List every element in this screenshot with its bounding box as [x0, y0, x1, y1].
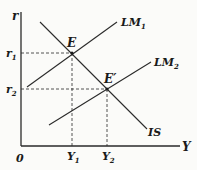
tick-r1-sub: 1 — [12, 53, 17, 62]
tick-y1-sub: 1 — [75, 156, 80, 165]
point-e — [70, 51, 73, 54]
label-is: IS — [147, 126, 161, 139]
origin-label: 0 — [16, 152, 24, 165]
label-lm2-sub: 2 — [173, 62, 179, 71]
label-lm2-main: LM — [153, 56, 175, 69]
x-axis-label: Y — [182, 140, 192, 154]
tick-r1: r1 — [6, 47, 17, 62]
point-e-prime — [105, 87, 108, 90]
label-lm2: LM2 — [153, 56, 179, 71]
label-point-e: E — [66, 36, 77, 50]
y-axis-label: r — [12, 9, 20, 23]
tick-r2-sub: 2 — [11, 89, 17, 98]
tick-y2-sub: 2 — [109, 156, 115, 165]
label-lm1-main: LM — [120, 16, 142, 29]
curve-lm2 — [49, 62, 151, 125]
tick-r2: r2 — [6, 83, 17, 98]
curve-is — [40, 22, 147, 129]
label-point-e-prime: E′ — [103, 72, 117, 86]
tick-y2: Y2 — [102, 150, 115, 165]
label-lm1: LM1 — [120, 16, 146, 31]
tick-y1: Y1 — [67, 150, 80, 165]
label-lm1-sub: 1 — [141, 22, 146, 31]
is-lm-diagram: r Y 0 LM1 LM2 IS E E′ r1 r2 Y1 Y2 — [0, 0, 197, 170]
